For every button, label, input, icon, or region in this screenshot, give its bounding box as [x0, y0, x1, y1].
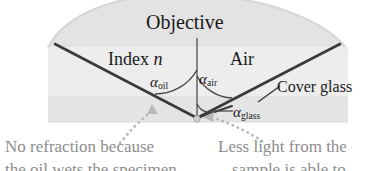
label-index-symbol: n: [153, 49, 162, 69]
alpha-air-subscript: air: [207, 78, 217, 88]
label-alpha-air: αair: [199, 71, 217, 88]
label-air: Air: [230, 50, 254, 68]
caption-right-line2: sample is able to: [232, 161, 346, 171]
caption-left-line2: the oil wets the specimen: [5, 161, 177, 171]
optics-diagram-figure: Objective Index n Air Cover glass αoil α…: [0, 0, 390, 171]
alpha-glass-subscript: glass: [241, 111, 261, 121]
alpha-oil-symbol: α: [150, 74, 158, 90]
alpha-air-symbol: α: [199, 71, 207, 87]
alpha-oil-subscript: oil: [158, 81, 168, 91]
label-index-n: Index n: [108, 50, 162, 68]
alpha-glass-symbol: α: [233, 104, 241, 120]
label-cover-glass: Cover glass: [277, 79, 352, 95]
caption-left-line1: No refraction because: [5, 138, 154, 155]
caption-right-line1: Less light from the: [218, 138, 347, 155]
label-alpha-oil: αoil: [150, 74, 168, 91]
ray-vertex-point: [194, 116, 200, 122]
label-objective: Objective: [146, 12, 224, 32]
label-alpha-glass: αglass: [233, 104, 260, 121]
label-index-prefix: Index: [108, 49, 153, 69]
